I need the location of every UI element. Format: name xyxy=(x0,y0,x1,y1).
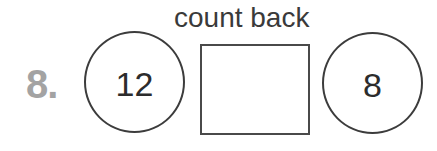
end-number: 8 xyxy=(363,66,382,105)
end-number-circle: 8 xyxy=(322,32,423,134)
answer-box[interactable] xyxy=(200,44,310,135)
question-number: 8. xyxy=(26,64,57,104)
start-number-circle: 12 xyxy=(84,31,185,133)
instruction-label: count back xyxy=(174,4,309,32)
start-number: 12 xyxy=(116,65,154,104)
